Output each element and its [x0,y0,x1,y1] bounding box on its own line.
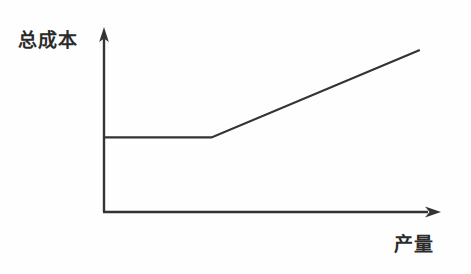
x-axis-title: 产量 [394,234,434,256]
y-axis-title: 总成本 [18,30,78,52]
chart-figure: 总成本 产量 0 [0,0,471,274]
